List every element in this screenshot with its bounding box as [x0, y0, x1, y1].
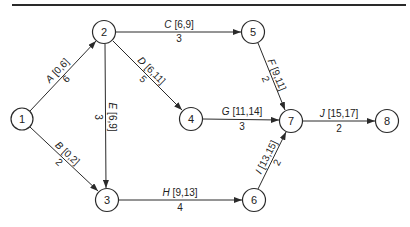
svg-text:6: 6: [251, 194, 257, 206]
svg-text:3: 3: [93, 114, 104, 120]
node-6: 6: [243, 189, 266, 212]
svg-text:7: 7: [288, 115, 294, 127]
node-3: 3: [96, 189, 119, 212]
node-7: 7: [280, 110, 303, 133]
svg-text:2: 2: [336, 123, 342, 134]
svg-text:4: 4: [188, 113, 194, 125]
node-5: 5: [242, 21, 265, 44]
svg-text:1: 1: [19, 113, 25, 125]
svg-text:5: 5: [137, 73, 149, 85]
svg-text:3: 3: [104, 194, 110, 206]
svg-text:2: 2: [260, 74, 272, 84]
svg-text:5: 5: [250, 26, 256, 38]
svg-text:2: 2: [101, 26, 107, 38]
svg-text:3: 3: [176, 33, 182, 44]
svg-text:2: 2: [53, 156, 65, 168]
node-1: 1: [11, 108, 33, 130]
edge-f-label: F[9,11] 2: [255, 57, 289, 97]
svg-text:C[6,9]: C[6,9]: [164, 19, 194, 30]
edge-a-label: A[0,6] 6: [43, 56, 81, 94]
edge-g: [203, 119, 279, 120]
network-diagram: 1 2 3 4 5 6 7 8 A[0,6] 6 B[0,2] 2 C[6,9]: [0, 0, 410, 227]
node-8: 8: [376, 110, 399, 133]
node-2: 2: [93, 21, 116, 44]
svg-text:4: 4: [177, 202, 183, 213]
svg-text:3: 3: [239, 121, 245, 132]
svg-text:6: 6: [60, 73, 72, 85]
node-4: 4: [180, 108, 203, 131]
svg-text:2: 2: [271, 157, 284, 167]
svg-text:H[9,13]: H[9,13]: [162, 187, 197, 198]
edge-i-label: I[13,15] 2: [253, 138, 290, 181]
svg-text:I[13,15]: I[13,15]: [253, 138, 279, 176]
edge-e: [105, 44, 106, 188]
svg-text:E[6,9]: E[6,9]: [107, 102, 118, 131]
svg-text:J[15,17]: J[15,17]: [319, 108, 359, 119]
svg-text:8: 8: [384, 115, 390, 127]
svg-text:G[11,14]: G[11,14]: [222, 106, 263, 117]
